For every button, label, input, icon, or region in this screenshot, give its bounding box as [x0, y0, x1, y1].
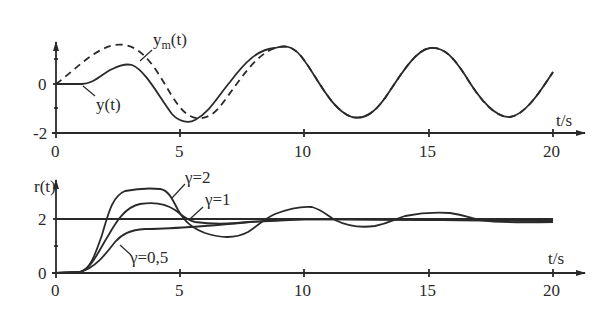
upper-xtick-label: 5	[175, 142, 184, 161]
lower-ytick-label-0: 0	[38, 264, 47, 283]
gamma1-leader-line	[190, 207, 203, 219]
lower-xtick-label: 15	[419, 281, 436, 300]
y-label: y(t)	[96, 95, 121, 114]
gamma-2-label: γ=2	[184, 168, 211, 187]
upper-xtick-label: 10	[294, 142, 311, 161]
gamma2-leader-line	[172, 184, 185, 198]
ym-leader-line	[140, 50, 152, 61]
upper-xtick-label: 15	[419, 142, 436, 161]
gamma-1-label: γ=1	[204, 190, 231, 209]
lower-xtick-label: 0	[51, 281, 60, 300]
upper-x-axis-label: t/s	[556, 111, 572, 130]
lower-xtick-label: 20	[543, 281, 560, 300]
ym-label: ym(t)	[153, 30, 187, 52]
series-y	[56, 46, 553, 121]
upper-ytick-label-minus2: -2	[33, 124, 47, 143]
gamma-05-label: γ=0,5	[129, 248, 168, 267]
y-leader-line	[83, 86, 95, 96]
upper-ytick-label-0: 0	[38, 75, 47, 94]
series-ym	[56, 45, 553, 119]
lower-chart: r(t) 2 0 0 5 10 15 20 t/s γ=2 γ=1 γ=0,5	[34, 168, 585, 300]
upper-chart: 0 -2 0 5 10 15 20 t/s ym(t) y(t)	[33, 30, 585, 161]
lower-ytick-label-2: 2	[38, 210, 47, 229]
lower-x-axis-label: t/s	[548, 249, 564, 268]
lower-y-axis-label: r(t)	[34, 177, 56, 196]
figure: 0 -2 0 5 10 15 20 t/s ym(t) y(t) r(t) 2 …	[0, 0, 603, 318]
upper-xtick-label: 20	[543, 142, 560, 161]
upper-xtick-label: 0	[51, 142, 60, 161]
lower-xtick-label: 10	[294, 281, 311, 300]
lower-xtick-label: 5	[175, 281, 184, 300]
